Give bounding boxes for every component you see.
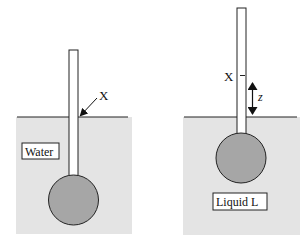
left-panel-water: X Water xyxy=(16,50,132,234)
thermometer-bulb xyxy=(49,175,99,225)
thermometer-bulb xyxy=(216,133,266,183)
thermometer-stem xyxy=(69,50,78,178)
thermometer-diagram: X Water X z Liquid L xyxy=(0,0,306,239)
height-z-label: z xyxy=(257,90,263,104)
water-label: Water xyxy=(25,145,53,159)
liquid-l-label: Liquid L xyxy=(216,195,258,209)
thermometer-stem xyxy=(237,8,246,136)
mark-x-label: X xyxy=(99,88,109,103)
right-panel-liquid-l: X z Liquid L xyxy=(183,8,300,235)
mark-x-arrow-icon xyxy=(81,98,97,115)
mark-x-label: X xyxy=(224,69,234,84)
